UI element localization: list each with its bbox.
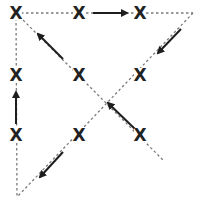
mark-middle-center: X	[72, 65, 85, 85]
mark-middle-left: X	[9, 65, 22, 85]
arrow-up-left-diagonal-icon	[38, 34, 63, 59]
mark-lower-left: X	[9, 125, 22, 145]
dashed-lines	[16, 13, 193, 197]
mark-top-middle: X	[72, 3, 85, 23]
arrow-up-left-lower-icon	[108, 103, 135, 129]
mark-top-right: X	[133, 3, 146, 23]
arrow-down-left-upper-icon	[158, 29, 181, 53]
mark-lower-right: X	[133, 125, 146, 145]
arrow-down-left-lower-icon	[40, 152, 63, 177]
mark-top-left: X	[9, 3, 22, 23]
path-diagram: XXXXXXXXX	[0, 0, 201, 201]
mark-lower-center: X	[72, 125, 85, 145]
mark-middle-right: X	[133, 65, 146, 85]
